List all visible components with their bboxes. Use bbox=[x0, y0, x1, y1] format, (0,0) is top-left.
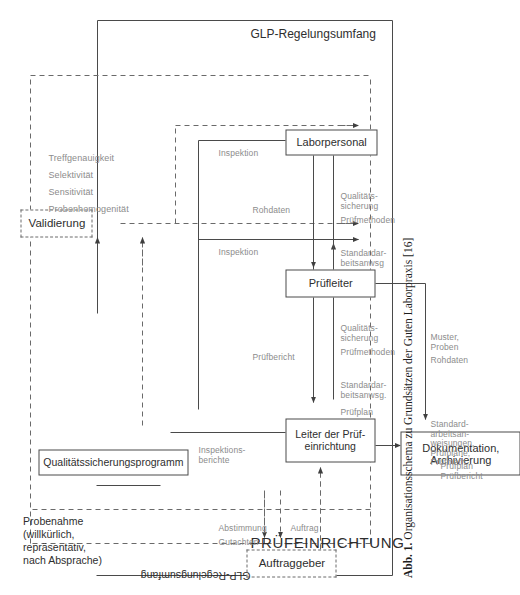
edge-label-muster-proben: Muster, Proben bbox=[430, 332, 459, 351]
edge-label-qualitaetssicherung-1: Qualitäts- sicherung bbox=[340, 323, 378, 342]
edge-label-rohdaten-lab: Rohdaten bbox=[252, 205, 290, 215]
edge-label-standardarbeitsanwsg-1: Standardar- beitsanwsg. bbox=[340, 380, 386, 399]
validierung-attr-selektivitaet: Selektivität bbox=[48, 169, 93, 179]
edge-label-inspektion-2: Inspektion bbox=[218, 148, 258, 158]
box-qs-label: Qualitätssicherungsprogramm bbox=[43, 456, 183, 468]
box-laborpersonal[interactable]: Laborpersonal bbox=[285, 129, 377, 155]
box-pruefleiter-label: Prüfleiter bbox=[308, 277, 352, 289]
box-validierung-label: Validierung bbox=[28, 217, 85, 230]
validierung-attr-treffgenauigkeit: Treffgenauigkeit bbox=[48, 152, 114, 162]
edge-label-standardarbeitsanwsg-2: Standardar- beitsanwsg bbox=[340, 248, 386, 267]
validierung-attr-probenhomogenitaet: Probenhomogenität bbox=[48, 203, 128, 213]
box-qualitaetssicherungsprogramm[interactable]: Qualitätssicherungsprogramm bbox=[38, 449, 188, 475]
figure-caption: Abb. 1. Organisationsschema zu Grundsätz… bbox=[385, 0, 431, 595]
edge-label-qualitaetssicherung-2: Qualitäts- sicherung bbox=[340, 191, 378, 210]
box-probenahme: Probenahme (willkürlich, repräsentativ, … bbox=[34, 509, 90, 573]
box-laborpersonal-label: Laborpersonal bbox=[296, 136, 366, 148]
scope-label-outer: GLP-Regelungsumfang bbox=[250, 26, 375, 40]
edge-label-auftrag: Auftrag bbox=[290, 523, 318, 533]
section-title-pruefeinrichtung: PRÜFEINRICHTUNG bbox=[250, 533, 404, 550]
scope-label-inner: GLP-Regelungsumfang bbox=[140, 569, 250, 581]
box-leiter-der-pruefeinrichtung[interactable]: Leiter der Prüf- einrichtung bbox=[285, 418, 375, 462]
validierung-attr-sensitivitaet: Sensitivität bbox=[48, 186, 93, 196]
edge-label-abstimmung: Abstimmung bbox=[218, 523, 266, 533]
box-auftraggeber[interactable]: Auftraggeber bbox=[246, 549, 336, 577]
edge-label-inspektionsberichte: Inspektions- berichte bbox=[198, 445, 245, 464]
edge-label-pruefplan: Prüfplan bbox=[340, 407, 372, 417]
box-pruefleiter[interactable]: Prüfleiter bbox=[285, 269, 375, 297]
edge-label-standardarbeitsanweisungen: Standard- arbeitsan- weisungen, Prüfplän… bbox=[430, 419, 474, 467]
edge-label-gutachten: Gutachten bbox=[218, 537, 258, 547]
edge-label-pruefbericht-leiter: Prüfbericht bbox=[252, 352, 294, 362]
edge-label-inspektion-1: Inspektion bbox=[218, 247, 258, 257]
edge-label-rohdaten-dok: Rohdaten bbox=[430, 355, 468, 365]
box-auftraggeber-label: Auftraggeber bbox=[258, 557, 325, 570]
box-leiter-label: Leiter der Prüf- einrichtung bbox=[295, 428, 365, 452]
figure-caption-prefix: Abb. 1. bbox=[402, 542, 414, 577]
box-probenahme-label: Probenahme (willkürlich, repräsentativ, … bbox=[23, 515, 102, 568]
figure-caption-text: Organisationsschema zu Grundsätzen der G… bbox=[402, 237, 414, 539]
